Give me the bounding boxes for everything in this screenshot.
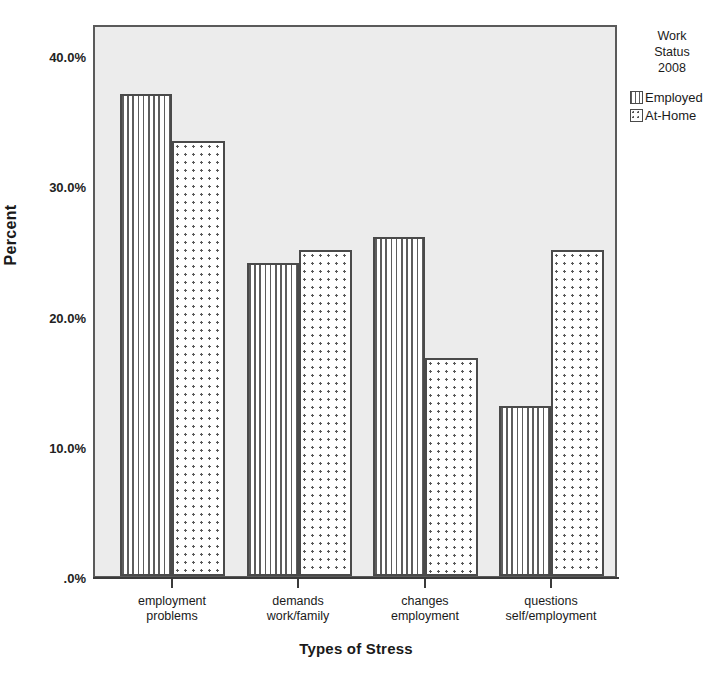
y-tick-label-20: 20.0% [22, 311, 86, 326]
legend-title: Work Status 2008 [630, 28, 714, 76]
bar-employed-questions-self-employment [499, 406, 551, 576]
legend-swatch-vertical-lines-icon [630, 91, 643, 104]
bar-chart: Percent 40.0% 30.0% 20.0% 10.0% .0% [0, 0, 727, 675]
bar-athome-changes-employment [425, 358, 478, 576]
plot-inner [95, 27, 615, 576]
bar-athome-demands-work-family [299, 250, 352, 576]
x-tick-label-line2: self/employment [466, 609, 636, 624]
legend-title-line1: Work [630, 28, 714, 44]
y-tick-label-40: 40.0% [22, 50, 86, 65]
y-axis-ticks: 40.0% 30.0% 20.0% 10.0% .0% [20, 0, 86, 675]
x-tick-mark-3 [424, 578, 426, 588]
bar-employed-demands-work-family [247, 263, 299, 576]
x-axis-title: Types of Stress [93, 640, 619, 657]
legend: Work Status 2008 Employed At-Home [630, 28, 725, 126]
legend-label-employed: Employed [645, 90, 703, 105]
bar-athome-employment-problems [172, 141, 225, 576]
x-tick-mark-4 [550, 578, 552, 588]
x-tick-label-line1: questions [466, 594, 636, 609]
plot-area [93, 25, 617, 578]
legend-swatch-dots-icon [630, 109, 643, 122]
legend-entries: Employed At-Home [630, 90, 725, 123]
x-tick-mark-2 [297, 578, 299, 588]
legend-title-line2: Status [630, 44, 714, 60]
legend-entry-at-home[interactable]: At-Home [630, 108, 725, 123]
legend-title-line3: 2008 [630, 60, 714, 76]
x-tick-mark-1 [171, 578, 173, 588]
legend-label-at-home: At-Home [645, 108, 696, 123]
bar-employed-employment-problems [120, 94, 172, 576]
bar-athome-questions-self-employment [551, 250, 604, 576]
bar-employed-changes-employment [373, 237, 425, 576]
x-tick-label-questions-self-employment: questions self/employment [466, 594, 636, 624]
y-tick-label-10: 10.0% [22, 441, 86, 456]
legend-entry-employed[interactable]: Employed [630, 90, 725, 105]
y-tick-label-0: .0% [22, 571, 86, 586]
y-tick-label-30: 30.0% [22, 180, 86, 195]
y-axis-title: Percent [2, 165, 20, 305]
